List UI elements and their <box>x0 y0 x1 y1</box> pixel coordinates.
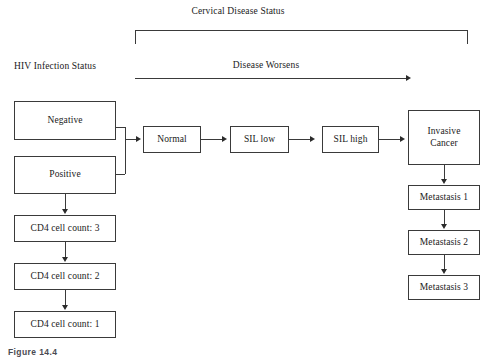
edge-cd4-2-to-cd4-1-arrow-head <box>62 305 68 310</box>
cervical-disease-status-label: Cervical Disease Status <box>191 6 284 16</box>
node-metastasis-3[interactable]: Metastasis 3 <box>408 275 480 300</box>
node-cd4-count-3[interactable]: CD4 cell count: 3 <box>14 215 116 242</box>
edge-sil-low-to-sil-high-arrow-head <box>310 136 315 142</box>
edge-normal-to-sil-low-arrow-head <box>222 136 227 142</box>
cervical-bracket-left-tick <box>135 30 136 44</box>
cervical-bracket-top-line <box>135 30 467 31</box>
edge-positive-to-cd4-3 <box>65 194 66 210</box>
edge-cd4-3-to-cd4-2-arrow-head <box>62 257 68 262</box>
edge-sil-low-to-sil-high <box>289 139 311 140</box>
node-cd4-count-2[interactable]: CD4 cell count: 2 <box>14 263 116 290</box>
node-metastasis-1[interactable]: Metastasis 1 <box>408 185 480 210</box>
invasive-cancer-label-line-1: Invasive <box>428 126 461 138</box>
figure-canvas: Cervical Disease Status HIV Infection St… <box>0 0 494 357</box>
edge-invasive-cancer-to-metastasis-1-arrow-head <box>441 179 447 184</box>
edge-cd4-3-to-cd4-2 <box>65 242 66 258</box>
edge-metastasis-2-to-metastasis-3 <box>444 255 445 270</box>
edge-metastasis-2-to-metastasis-3-arrow-head <box>441 269 447 274</box>
edge-cd4-2-to-cd4-1 <box>65 290 66 306</box>
node-normal[interactable]: Normal <box>143 126 201 153</box>
node-sil-high[interactable]: SIL high <box>322 126 379 153</box>
disease-worsens-label: Disease Worsens <box>233 60 299 70</box>
edge-sil-high-to-invasive-cancer <box>379 139 401 140</box>
figure-caption: Figure 14.4 <box>8 347 57 357</box>
brace-to-normal-arrow-head <box>136 136 141 142</box>
node-cd4-count-1[interactable]: CD4 cell count: 1 <box>14 311 116 338</box>
node-invasive-cancer[interactable]: Invasive Cancer <box>408 110 480 165</box>
disease-worsens-arrow-line <box>135 78 407 79</box>
edge-invasive-cancer-to-metastasis-1 <box>444 165 445 180</box>
invasive-cancer-label-line-2: Cancer <box>430 138 458 150</box>
node-hiv-positive[interactable]: Positive <box>14 156 116 194</box>
edge-metastasis-1-to-metastasis-2-arrow-head <box>441 224 447 229</box>
node-sil-low[interactable]: SIL low <box>230 126 289 153</box>
edge-normal-to-sil-low <box>201 139 223 140</box>
edge-metastasis-1-to-metastasis-2 <box>444 210 445 225</box>
brace-stub-negative <box>116 127 125 128</box>
disease-worsens-arrow-head <box>406 75 411 81</box>
brace-stub-positive <box>116 174 125 175</box>
edge-positive-to-cd4-3-arrow-head <box>62 209 68 214</box>
node-metastasis-2[interactable]: Metastasis 2 <box>408 230 480 255</box>
node-hiv-negative[interactable]: Negative <box>14 101 116 140</box>
hiv-infection-status-label: HIV Infection Status <box>14 61 96 71</box>
edge-sil-high-to-invasive-cancer-arrow-head <box>400 136 405 142</box>
cervical-bracket-right-tick <box>467 30 468 44</box>
brace-vertical <box>125 127 126 174</box>
